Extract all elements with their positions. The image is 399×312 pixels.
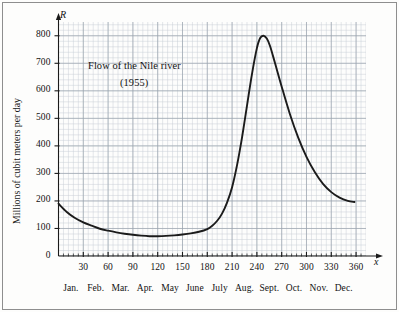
x-tick-label: 120 <box>145 262 171 272</box>
y-tick-label: 500 <box>25 112 51 122</box>
y-tick-label: 100 <box>25 222 51 232</box>
month-label: Dec. <box>329 283 359 293</box>
x-axis-symbol: x <box>374 256 379 267</box>
x-tick-label: 60 <box>95 262 121 272</box>
x-tick-label: 210 <box>219 262 245 272</box>
y-axis-symbol: R <box>60 9 66 20</box>
y-tick-label: 400 <box>25 139 51 149</box>
grid-minor-lines <box>59 22 367 256</box>
chart-title-line-2: (1955) <box>120 77 148 88</box>
x-tick-label: 90 <box>120 262 146 272</box>
x-tick-label: 240 <box>244 262 270 272</box>
y-tick-label: 0 <box>25 250 51 260</box>
x-tick-label: 300 <box>293 262 319 272</box>
y-tick-label: 300 <box>25 167 51 177</box>
y-tick-label: 800 <box>25 29 51 39</box>
x-tick-label: 360 <box>343 262 369 272</box>
x-tick-label: 30 <box>70 262 96 272</box>
x-tick-label: 180 <box>194 262 220 272</box>
y-tick-label: 700 <box>25 57 51 67</box>
y-tick-label: 200 <box>25 194 51 204</box>
x-tick-label: 330 <box>318 262 344 272</box>
y-tick-label: 600 <box>25 84 51 94</box>
chart-axes <box>56 13 383 259</box>
x-tick-label: 150 <box>169 262 195 272</box>
x-tick-label: 270 <box>269 262 295 272</box>
y-axis-title-text: Millions of cubit meters per day <box>11 64 22 224</box>
figure-canvas: R x Flow of the Nile river (1955) Millio… <box>0 0 399 312</box>
y-axis-title: Millions of cubit meters per day <box>7 0 18 66</box>
chart-title-line-1: Flow of the Nile river <box>88 60 181 71</box>
